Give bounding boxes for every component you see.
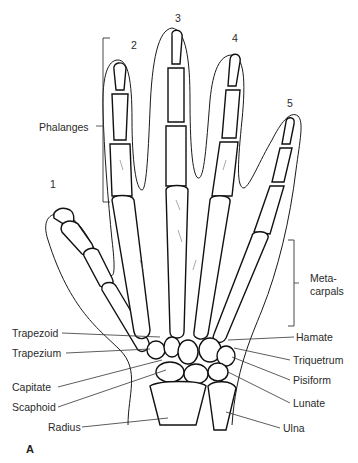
hand-skeleton-drawing [0, 0, 358, 463]
label-triquetrum: Triquetrum [293, 354, 343, 366]
digit-number-4: 4 [232, 32, 238, 44]
digit-number-5: 5 [287, 97, 293, 109]
label-radius: Radius [48, 421, 81, 433]
label-trapezium: Trapezium [12, 347, 61, 359]
panel-label: A [26, 443, 34, 455]
label-hamate: Hamate [296, 331, 333, 343]
label-pisiform: Pisiform [293, 374, 331, 386]
label-capitate: Capitate [12, 381, 51, 393]
label-metacarpals-line2: carpals [310, 285, 344, 297]
digit-number-3: 3 [175, 12, 181, 24]
digit-number-2: 2 [131, 39, 137, 51]
label-ulna: Ulna [283, 422, 305, 434]
label-metacarpals-line1: Meta- [310, 272, 337, 284]
label-phalanges: Phalanges [39, 121, 89, 133]
label-trapezoid: Trapezoid [12, 327, 58, 339]
hand-bones-diagram: 1 2 3 4 5 Phalanges Meta- carpals Trapez… [0, 0, 358, 463]
label-lunate: Lunate [293, 397, 325, 409]
digit-number-1: 1 [50, 178, 56, 190]
label-scaphoid: Scaphoid [12, 401, 56, 413]
